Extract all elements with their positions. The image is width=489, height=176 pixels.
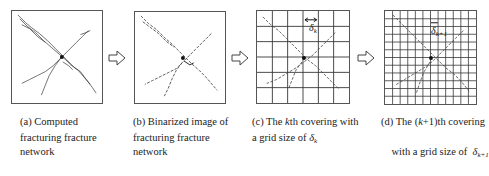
caption-b-line-1: (b) Binarized image of <box>133 115 228 129</box>
caption-b-line-3: network <box>133 145 228 159</box>
caption-a: (a) Computed fracturing fracture network <box>20 115 97 159</box>
caption-a-line-2: fracturing fracture <box>20 131 97 145</box>
fracture-network-drawing <box>12 11 102 103</box>
grid-size-label: δk <box>309 22 317 35</box>
panel-d-k-plus-1-covering: δk+1 <box>384 10 477 105</box>
binarized-network-drawing <box>135 12 225 103</box>
caption-a-line-1: (a) Computed <box>20 115 97 129</box>
caption-c-line-2: a grid size of δk <box>252 131 359 148</box>
caption-d-line-1: (d) The (k+1)th covering <box>381 115 489 129</box>
grid-size-label: δk+1 <box>431 25 447 38</box>
right-arrow-icon <box>108 49 126 67</box>
panel-b-binarized-image <box>134 11 226 104</box>
caption-d-line-2: with a grid size of δk+1 <box>381 131 489 176</box>
caption-c: (c) The kth covering with a grid size of… <box>252 115 359 148</box>
right-arrow-icon <box>357 49 375 67</box>
caption-b-line-2: fracturing fracture <box>133 131 228 145</box>
panel-a-computed-network <box>11 10 103 104</box>
caption-d: (d) The (k+1)th covering with a grid siz… <box>381 115 489 176</box>
caption-b: (b) Binarized image of fracturing fractu… <box>133 115 228 159</box>
panel-c-kth-covering: δk <box>256 10 350 104</box>
right-arrow-icon <box>231 49 249 67</box>
grid-covering-coarse <box>257 11 349 103</box>
caption-c-line-1: (c) The kth covering with <box>252 115 359 129</box>
caption-a-line-3: network <box>20 145 97 159</box>
